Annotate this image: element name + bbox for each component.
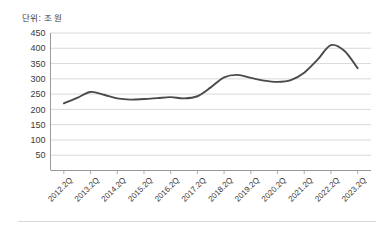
x-axis-tick-label: 2015.2Q [126,176,154,204]
y-axis-tick-label: 100 [30,135,45,145]
y-axis-tick-label: 150 [30,120,45,130]
y-axis-tick-labels: 50100150200250300350400450 [30,28,45,160]
x-axis-tick-label: 2013.2Q [73,176,101,204]
y-axis-tick-label: 200 [30,105,45,115]
footer-divider [18,221,376,222]
x-axis-tick-label: 2022.2Q [313,176,341,204]
y-axis-tick-label: 50 [35,150,45,160]
line-chart-plot: 50100150200250300350400450 2012.2Q2013.2… [0,0,390,232]
x-axis-tick-label: 2020.2Q [260,176,288,204]
x-axis-tick-label: 2014.2Q [100,176,128,204]
x-axis-tickmarks [64,171,358,175]
x-axis-tick-labels: 2012.2Q2013.2Q2014.2Q2015.2Q2016.2Q2017.… [46,176,368,204]
chart-container: 단위: 조 원 50100150200250300350400450 2012.… [0,0,390,232]
x-axis-tick-label: 2012.2Q [46,176,74,204]
x-axis-tick-label: 2018.2Q [206,176,234,204]
x-axis-tick-label: 2019.2Q [233,176,261,204]
x-axis-tick-label: 2017.2Q [180,176,208,204]
x-axis-tick-label: 2016.2Q [153,176,181,204]
x-axis-tick-label: 2023.2Q [340,176,368,204]
y-axis-tick-label: 350 [30,59,45,69]
y-axis-tick-label: 450 [30,28,45,38]
x-axis-tick-label: 2021.2Q [287,176,315,204]
y-axis-tick-label: 300 [30,74,45,84]
y-axis-tick-label: 250 [30,89,45,99]
y-axis-tick-label: 400 [30,43,45,53]
data-series-line [64,45,358,103]
